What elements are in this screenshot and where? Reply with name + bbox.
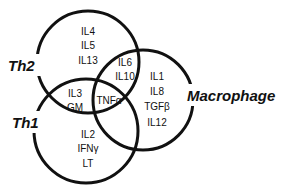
cytokine-tgfb: TGFβ [144, 101, 170, 112]
cytokine-il1: IL1 [150, 71, 164, 82]
cytokine-il2: IL2 [81, 129, 95, 140]
cytokine-il4: IL4 [81, 26, 95, 37]
cytokine-il12: IL12 [147, 117, 167, 128]
cytokine-il8: IL8 [150, 86, 164, 97]
cytokine-gm: GM [67, 102, 83, 113]
venn-diagram: Th2 Th1 Macrophage IL4 IL5 IL13 IL6 IL10… [0, 0, 299, 195]
cytokine-tnfa: TNFα [96, 95, 121, 106]
macrophage-label: Macrophage [187, 87, 275, 104]
th1-label: Th1 [12, 114, 39, 131]
cytokine-il13: IL13 [78, 55, 98, 66]
cytokine-il5: IL5 [81, 40, 95, 51]
cytokine-il6: IL6 [118, 57, 132, 68]
cytokine-ifng: IFNγ [77, 143, 98, 154]
cytokine-il3: IL3 [68, 88, 82, 99]
th2-label: Th2 [8, 57, 35, 74]
cytokine-il10: IL10 [115, 71, 135, 82]
cytokine-lt: LT [83, 158, 94, 169]
